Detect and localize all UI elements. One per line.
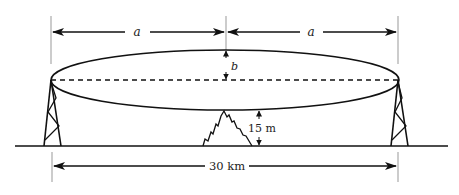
label-b: b	[231, 60, 238, 73]
mountain-obstacle-icon	[203, 111, 252, 146]
label-total-distance: 30 km	[209, 159, 245, 173]
right-tower-icon	[391, 80, 408, 146]
left-tower-icon	[44, 80, 61, 146]
fresnel-zone-diagram: a a b 15 m 30 km	[0, 0, 459, 195]
guide-lines	[51, 16, 398, 182]
label-a-left: a	[133, 25, 140, 39]
label-a-right: a	[307, 25, 314, 39]
label-clearance: 15 m	[248, 122, 276, 135]
